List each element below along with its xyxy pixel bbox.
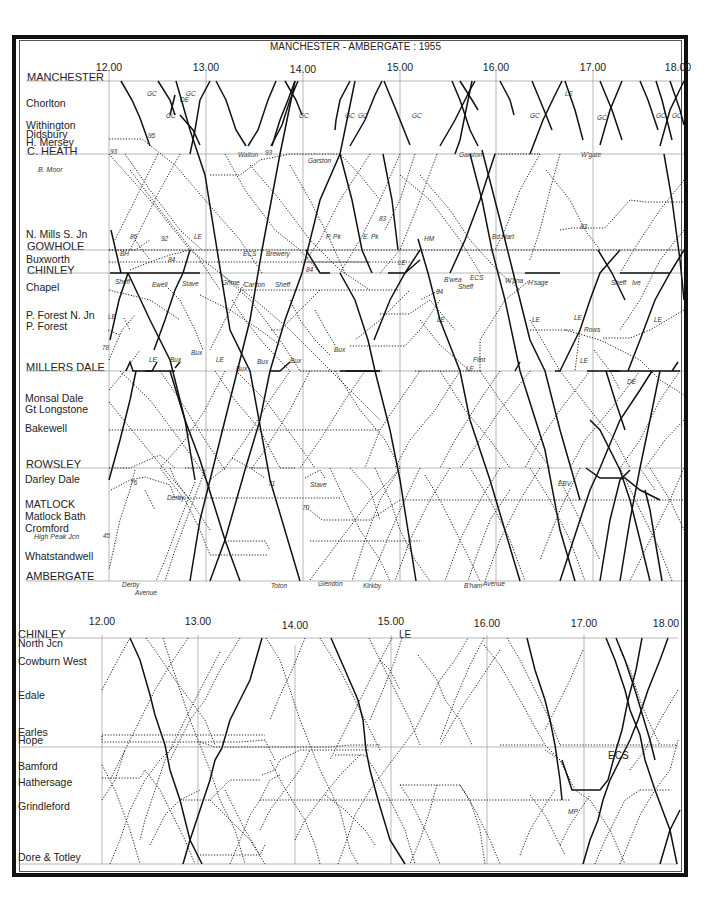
top-freight-trains bbox=[108, 139, 684, 581]
top-hold-lines bbox=[126, 362, 678, 371]
train-graph-plot bbox=[0, 0, 724, 920]
bottom-freight-trains bbox=[102, 638, 678, 864]
